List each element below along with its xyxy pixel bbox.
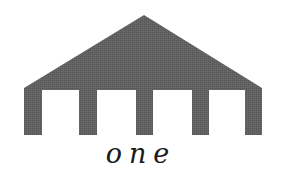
logo-wordmark: one bbox=[0, 139, 282, 169]
roof-and-columns-shape bbox=[24, 15, 262, 135]
